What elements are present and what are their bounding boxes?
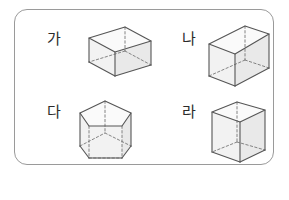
answer-row: ( )	[0, 168, 289, 200]
worksheet-root: 가	[0, 0, 289, 200]
figure-choices-panel: 가	[14, 9, 274, 165]
solid-ra-rectangular-prism[interactable]	[207, 98, 271, 174]
solid-na-svg	[205, 22, 275, 92]
solid-da-svg	[75, 96, 137, 168]
solid-ga-svg	[67, 24, 153, 86]
figure-label-da: 다	[47, 105, 61, 120]
figure-label-ga: 가	[47, 32, 61, 47]
solid-na-rectangular-prism[interactable]	[205, 22, 275, 96]
solid-da-pentagonal-prism[interactable]	[75, 96, 137, 172]
solid-ga-rectangular-prism[interactable]	[67, 24, 153, 90]
solid-ra-svg	[207, 98, 271, 170]
figure-label-na: 나	[182, 32, 196, 47]
figure-label-ra: 라	[182, 105, 196, 120]
